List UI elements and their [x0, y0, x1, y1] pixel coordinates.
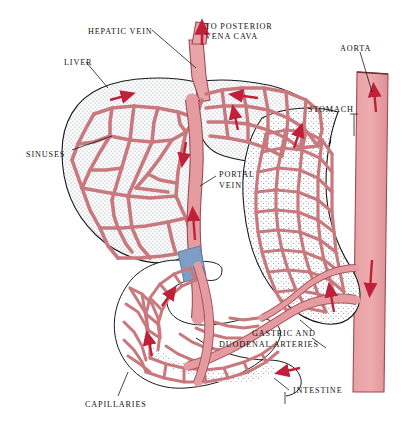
- label-portal-vein-line2: VEIN: [219, 181, 242, 192]
- label-liver: LIVER: [64, 58, 92, 69]
- label-capillaries: CAPILLARIES: [85, 400, 147, 411]
- label-sinuses: SINUSES: [26, 150, 65, 161]
- diagram-canvas: [0, 0, 407, 429]
- label-to-posterior-vena-cava-line2: VENA CAVA: [205, 32, 258, 43]
- label-portal-vein-line1: PORTAL: [219, 170, 255, 181]
- label-gastric-and: GASTRIC AND: [252, 329, 316, 340]
- anatomical-diagram: HEPATIC VEIN TO POSTERIOR VENA CAVA AORT…: [0, 0, 407, 429]
- label-duodenal-arteries: DUODENAL ARTERIES: [219, 340, 319, 351]
- label-aorta: AORTA: [340, 44, 371, 55]
- label-stomach: STOMACH: [308, 105, 354, 116]
- label-to-posterior-vena-cava-line1: TO POSTERIOR: [205, 22, 273, 33]
- aorta-vessel: [353, 72, 388, 392]
- label-hepatic-vein: HEPATIC VEIN: [88, 27, 153, 38]
- label-intestine: INTESTINE: [293, 386, 343, 397]
